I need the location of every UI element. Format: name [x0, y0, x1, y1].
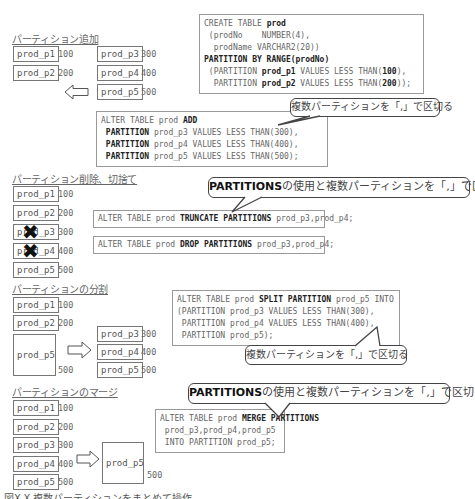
sql-keyword: ADD [183, 116, 197, 125]
heading-merge-partition: パーティションのマージ [12, 384, 118, 399]
sql-text: prod_p3,prod_p4; [252, 240, 334, 249]
figure-caption: 図X-X 複数パーティションをまとめて操作 [4, 490, 193, 499]
sql-line: PARTITION prod_p3 VALUES LESS THAN(300), [101, 127, 323, 139]
partition-value: 500 [141, 362, 156, 378]
partition-name: prod_p3 [101, 49, 139, 59]
sql-text: PARTITION prod_p4 VALUES LESS THAN(400), [177, 319, 374, 328]
sql-text: (prodNo NUMBER(4), [204, 31, 310, 40]
callout-partitions-keyword: PARTITIONSの使用と複数パーティションを「,」で区切る [208, 177, 470, 198]
partition-value: 500 [58, 262, 73, 278]
sql-keyword: SPLIT PARTITION [259, 295, 331, 304]
partition-name: prod_p1 [17, 300, 55, 310]
partition-value: 200 [58, 65, 73, 81]
partition-value: 500 [141, 84, 156, 100]
sql-text: prod_p5 VALUES LESS THAN(500); [149, 152, 298, 161]
sql-line: CREATE TABLE prod [204, 18, 419, 30]
sql-keyword: MERGE PARTITIONS [242, 414, 319, 423]
partition-box: prod_p1 [13, 46, 59, 62]
sql-line: PARTITION prod_p5); [177, 330, 395, 342]
sql-keyword: prod_p1 [262, 67, 296, 76]
partition-box: prod_p4 [97, 65, 143, 81]
partition-name: prod_p3 [17, 440, 55, 450]
sql-text: prod_p4 VALUES LESS THAN(400), [149, 140, 298, 149]
partition-value: 200 [58, 205, 73, 221]
sql-text: ALTER TABLE prod [101, 116, 183, 125]
partition-box: prod_p2 [13, 205, 59, 221]
sql-text: prodName VARCHAR2(20)) [204, 43, 320, 52]
partition-value: 300 [141, 326, 156, 342]
partition-value: 200 [58, 419, 73, 435]
sql-text: VALUES LESS THAN( [296, 79, 383, 88]
partition-name: prod_p2 [17, 422, 55, 432]
partition-name: prod_p3 [101, 329, 139, 339]
partition-value: 500 [58, 362, 73, 378]
partition-name: prod_p4 [17, 459, 55, 469]
heading-add-partition: パーティション追加 [12, 31, 98, 46]
sql-keyword: 100 [382, 67, 396, 76]
partition-value: 400 [58, 456, 73, 472]
partition-box-large: prod_p5 [13, 334, 56, 376]
partition-box: prod_p1 [13, 400, 59, 416]
split-partition-sql: ALTER TABLE prod SPLIT PARTITION prod_p5… [172, 290, 400, 346]
heading-split-partition: パーティションの分割 [12, 281, 108, 296]
sql-text: PARTITION prod_p5); [177, 331, 273, 340]
sql-line: INTO PARTITION prod_p5; [160, 437, 280, 449]
partition-box: prod_p3 [13, 437, 59, 453]
partition-box: prod_p4 [97, 344, 143, 360]
sql-text: )); [397, 79, 411, 88]
partition-value: 500 [58, 474, 73, 490]
merge-partitions-sql: ALTER TABLE prod MERGE PARTITIONS prod_p… [155, 409, 285, 453]
partition-box: prod_p5 [13, 474, 59, 490]
sql-line: PARTITION prod_p4 VALUES LESS THAN(400), [101, 139, 323, 151]
partition-name: prod_p2 [17, 208, 55, 218]
partition-name: prod_p2 [17, 68, 55, 78]
partition-box-large: prod_p5 [102, 442, 144, 484]
sql-text: prod_p5 INTO [331, 295, 394, 304]
partition-box: prod_p5 [97, 362, 143, 378]
arrow-right-icon [77, 451, 99, 467]
heading-drop-truncate: パーティション削除、切捨て [12, 171, 137, 186]
partition-name: prod_p1 [17, 189, 55, 199]
sql-line: prodName VARCHAR2(20)) [204, 42, 419, 54]
partition-value: 300 [141, 46, 156, 62]
callout-text: の使用と複数パーティションを「,」で区切る [282, 180, 475, 193]
partition-value: 100 [58, 46, 73, 62]
partition-name: prod_p4 [101, 347, 139, 357]
partition-box: prod_p1 [13, 297, 59, 313]
sql-text: ALTER TABLE prod [98, 214, 180, 223]
callout-text: の使用と複数パーティションを「,」で区切る [262, 386, 475, 399]
callout-bold-text: PARTITIONS [189, 386, 262, 399]
x-mark-icon: ✖ [22, 243, 39, 259]
partition-box: prod_p4 [13, 456, 59, 472]
sql-line: ALTER TABLE prod MERGE PARTITIONS [160, 413, 280, 425]
truncate-partitions-sql: ALTER TABLE prod TRUNCATE PARTITIONS pro… [93, 210, 325, 228]
partition-value: 200 [58, 315, 73, 331]
partition-name: prod_p1 [17, 403, 55, 413]
sql-line: PARTITION prod_p4 VALUES LESS THAN(400), [177, 318, 395, 330]
arrow-right-icon [68, 342, 91, 358]
partition-value: 100 [58, 400, 73, 416]
partition-box: prod_p5 [13, 262, 59, 278]
sql-keyword: PARTITION [101, 152, 149, 161]
sql-text: ), [397, 67, 407, 76]
partition-box: prod_p2 [13, 419, 59, 435]
sql-text: CREATE TABLE [204, 19, 267, 28]
sql-text: VALUES LESS THAN( [296, 67, 383, 76]
partition-value: 400 [141, 344, 156, 360]
callout-partitions-keyword: PARTITIONSの使用と複数パーティションを「,」で区切る [188, 383, 450, 404]
sql-keyword: PARTITION [101, 128, 149, 137]
sql-keyword: prod [267, 19, 286, 28]
sql-text: prod_p3,prod_p4,prod_p5 [160, 426, 276, 435]
x-mark-icon: ✖ [22, 224, 39, 240]
arrow-left-icon [65, 85, 88, 99]
sql-line: PARTITION prod_p5 VALUES LESS THAN(500); [101, 151, 323, 163]
sql-text: prod_p3,prod_p4; [271, 214, 353, 223]
sql-text: prod_p3 VALUES LESS THAN(300), [149, 128, 298, 137]
callout-text: 複数パーティションを「,」で区切る [291, 101, 453, 112]
sql-line: (PARTITION prod_p1 VALUES LESS THAN(100)… [204, 66, 419, 78]
drop-partitions-sql: ALTER TABLE prod DROP PARTITIONS prod_p3… [93, 236, 325, 254]
partition-value: 100 [58, 297, 73, 313]
sql-text: INTO PARTITION prod_p5; [160, 438, 276, 447]
sql-text: ALTER TABLE prod [98, 240, 180, 249]
partition-name: prod_p5 [17, 477, 55, 487]
